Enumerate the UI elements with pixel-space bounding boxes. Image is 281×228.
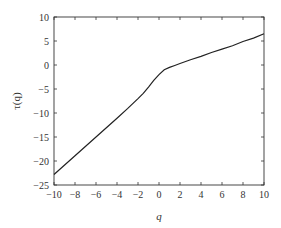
- x-tick-label: 2: [178, 189, 183, 200]
- x-tick-label: −6: [91, 189, 102, 200]
- y-tick-label: −10: [33, 108, 49, 119]
- x-tick-label: −2: [133, 189, 144, 200]
- x-tick-label: 4: [199, 189, 204, 200]
- chart: −10−8−6−4−20246810 −25−20−15−10−50510 q …: [0, 0, 281, 228]
- x-tick-labels: −10−8−6−4−20246810: [46, 189, 269, 200]
- plot-area: [54, 17, 264, 185]
- y-tick-label: −5: [38, 84, 49, 95]
- y-axis-label: τ(q): [10, 92, 23, 110]
- x-tick-label: 10: [259, 189, 269, 200]
- x-axis-label: q: [156, 210, 162, 222]
- y-tick-label: 10: [39, 12, 49, 23]
- x-tick-label: −4: [112, 189, 123, 200]
- y-tick-label: 5: [44, 36, 49, 47]
- y-tick-label: −15: [33, 132, 49, 143]
- y-tick-labels: −25−20−15−10−50510: [33, 12, 49, 191]
- x-tick-label: −8: [70, 189, 81, 200]
- y-tick-label: −20: [33, 156, 49, 167]
- y-tick-label: 0: [44, 60, 49, 71]
- x-tick-label: 6: [220, 189, 225, 200]
- y-tick-label: −25: [33, 180, 49, 191]
- x-tick-label: −10: [46, 189, 62, 200]
- x-tick-label: 0: [157, 189, 162, 200]
- x-tick-label: 8: [241, 189, 246, 200]
